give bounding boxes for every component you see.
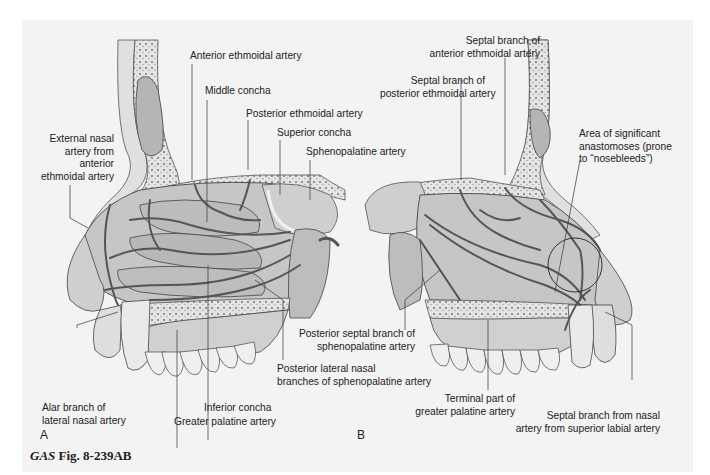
label-area-of-anastomoses: Area of significant anastomoses (prone t… xyxy=(579,128,672,166)
panel-letter-b: B xyxy=(357,428,365,442)
label-septal-branch-anterior-ethmoidal: Septal branch of anterior ethmoidal arte… xyxy=(420,35,540,60)
label-septal-branch-superior-labial: Septal branch from nasal artery from sup… xyxy=(480,410,660,435)
label-inferior-concha: Inferior concha xyxy=(204,402,271,415)
label-sphenopalatine-artery: Sphenopalatine artery xyxy=(306,146,406,159)
label-septal-branch-posterior-ethmoidal: Septal branch of posterior ethmoidal art… xyxy=(380,75,485,100)
label-anterior-ethmoidal-artery: Anterior ethmoidal artery xyxy=(190,50,302,63)
label-posterior-lateral-nasal-branches: Posterior lateral nasal branches of sphe… xyxy=(277,363,431,388)
label-superior-concha: Superior concha xyxy=(277,127,351,140)
figure-caption: GAS Fig. 8-239AB xyxy=(30,448,132,464)
label-middle-concha: Middle concha xyxy=(205,85,271,98)
label-external-nasal-artery: External nasal artery from anterior ethm… xyxy=(34,133,114,183)
panel-letter-a: A xyxy=(40,428,48,442)
caption-source: GAS xyxy=(30,448,55,463)
label-alar-branch: Alar branch of lateral nasal artery xyxy=(42,402,126,427)
label-greater-palatine-artery: Greater palatine artery xyxy=(174,416,276,429)
caption-figure-number: Fig. 8-239AB xyxy=(59,448,132,463)
label-posterior-septal-branch: Posterior septal branch of sphenopalatin… xyxy=(280,328,415,353)
label-posterior-ethmoidal-artery: Posterior ethmoidal artery xyxy=(246,108,363,121)
